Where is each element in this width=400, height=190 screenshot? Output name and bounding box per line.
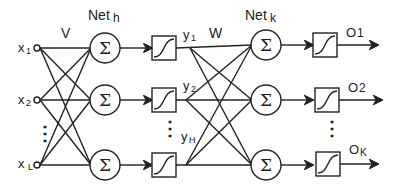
output-label-2: O 2 <box>348 80 366 95</box>
svg-text:1: 1 <box>191 33 196 43</box>
hidden-output-label-2: y 2 <box>183 78 196 94</box>
hidden-sigmoid-2 <box>152 88 176 112</box>
svg-text:K: K <box>360 147 367 158</box>
output-label-1: O 1 <box>346 25 364 40</box>
sigma-icon: Σ <box>260 35 272 55</box>
svg-text:L: L <box>28 162 33 172</box>
svg-text:Net: Net <box>245 7 267 23</box>
svg-text:Net: Net <box>88 7 110 23</box>
sigma-icon: Σ <box>260 90 272 110</box>
output-sigmoid-2 <box>315 88 339 112</box>
svg-text:y: y <box>183 27 190 42</box>
svg-text:2: 2 <box>359 81 366 95</box>
output-sum-node-1: Σ <box>251 30 281 60</box>
hidden-sum-node-1: Σ <box>90 33 120 63</box>
svg-text:O: O <box>348 80 358 95</box>
output-ellipsis: ⋮ <box>322 117 342 139</box>
input-ellipsis: ⋮ <box>35 122 55 144</box>
svg-text:x: x <box>18 156 25 171</box>
output-sum-node-2: Σ <box>251 85 281 115</box>
svg-text:1: 1 <box>26 46 31 56</box>
sigma-icon: Σ <box>99 38 111 58</box>
sigma-icon: Σ <box>99 155 111 175</box>
neural-network-diagram: V Net h W Net k x 1 x 2 ⋮ x L Σ <box>0 0 400 190</box>
input-hidden-connections <box>40 48 91 165</box>
output-sum-arrows <box>281 45 313 165</box>
output-net-label: Net k <box>245 7 277 25</box>
svg-text:x: x <box>18 40 25 55</box>
svg-text:H: H <box>189 135 196 145</box>
output-sigmoid-1 <box>313 33 337 57</box>
hidden-output-label-H: y H <box>181 129 196 145</box>
hidden-sum-node-2: Σ <box>90 85 120 115</box>
output-sum-node-K: Σ <box>251 150 281 180</box>
svg-text:x: x <box>18 92 25 107</box>
svg-text:y: y <box>183 78 190 93</box>
sigma-icon: Σ <box>99 90 111 110</box>
input-node-2: x 2 <box>18 92 40 108</box>
svg-text:2: 2 <box>26 98 31 108</box>
svg-text:1: 1 <box>357 26 364 40</box>
sigma-icon: Σ <box>260 155 272 175</box>
input-node-1: x 1 <box>18 40 40 56</box>
svg-text:O: O <box>349 142 359 157</box>
hidden-sigmoid-1 <box>152 36 176 60</box>
output-sigmoid-K <box>316 152 340 176</box>
svg-text:O: O <box>346 25 356 40</box>
hidden-sigmoid-H <box>152 153 176 177</box>
weight-label-w: W <box>209 25 223 41</box>
input-node-L: x L <box>18 156 40 172</box>
hidden-output-label-1: y 1 <box>183 27 196 43</box>
hidden-sum-arrows <box>120 48 152 165</box>
hidden-net-label: Net h <box>88 7 120 25</box>
hidden-ellipsis: ⋮ <box>160 117 180 139</box>
hidden-output-connections <box>176 45 252 165</box>
hidden-sum-node-H: Σ <box>90 150 120 180</box>
weight-label-v: V <box>61 25 71 41</box>
svg-text:y: y <box>181 129 188 144</box>
svg-text:k: k <box>270 11 277 25</box>
svg-text:h: h <box>113 11 120 25</box>
output-label-K: O K <box>349 142 367 158</box>
